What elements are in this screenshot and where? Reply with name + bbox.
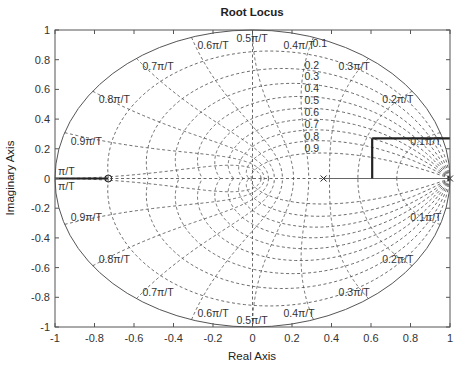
frequency-label: 0.5π/T [237, 32, 269, 44]
y-tick-label: -0.6 [31, 262, 50, 274]
damping-curve [228, 179, 450, 238]
damping-curve [251, 179, 450, 205]
frequency-label: 0.2π/T [382, 93, 414, 105]
x-axis-title: Real Axis [228, 350, 276, 362]
frequency-label: 0.8π/T [99, 253, 131, 265]
y-tick-label: 0.8 [35, 54, 50, 66]
x-tick-label: -0.2 [204, 332, 223, 344]
y-tick-label: -1 [40, 321, 50, 333]
frequency-label: 0.8π/T [99, 93, 131, 105]
frequency-label: 0.6π/T [197, 39, 229, 51]
frequency-label: 0.1π/T [410, 135, 442, 147]
damping-label: 0.7 [304, 118, 319, 130]
frequency-label: 0.6π/T [197, 307, 229, 319]
frequency-label: 0.2π/T [382, 253, 414, 265]
frequency-label: π/T [58, 180, 75, 192]
x-tick-label: 0 [249, 332, 255, 344]
frequency-label: 0.5π/T [237, 314, 269, 326]
y-tick-label: 0 [44, 173, 50, 185]
chart-title: Root Locus [220, 6, 283, 18]
damping-curve [228, 119, 450, 178]
damping-label: 0.8 [304, 130, 319, 142]
frequency-curve [329, 179, 368, 299]
damping-label: 0.6 [304, 106, 319, 118]
y-tick-label: -0.8 [31, 291, 50, 303]
damping-curve [251, 153, 450, 179]
frequency-label: 0.3π/T [339, 60, 371, 72]
damping-label: 0.3 [304, 70, 319, 82]
frequency-curve [191, 179, 282, 320]
frequency-label: 0.7π/T [142, 60, 174, 72]
x-tick-label: 1 [447, 332, 453, 344]
damping-label: 0.9 [304, 142, 319, 154]
x-tick-label: -1 [50, 332, 60, 344]
frequency-curve [329, 58, 368, 178]
x-tick-label: -0.8 [85, 332, 104, 344]
frequency-label: 0.4π/T [284, 307, 316, 319]
x-tick-label: 0.2 [284, 332, 299, 344]
x-tick-label: -0.6 [125, 332, 144, 344]
damping-curve [146, 68, 450, 178]
damping-label: 0.1 [312, 37, 327, 49]
frequency-curve [55, 179, 261, 192]
x-tick-label: 0.6 [363, 332, 378, 344]
damping-curve [146, 179, 450, 289]
frequency-label: π/T [58, 165, 75, 177]
y-axis-title: Imaginary Axis [4, 140, 16, 215]
damping-label: 0.4 [304, 82, 319, 94]
damping-label: 0.2 [304, 59, 319, 71]
frequency-label: 0.9π/T [71, 135, 103, 147]
frequency-curve [55, 165, 261, 178]
frequency-label: 0.1π/T [410, 211, 442, 223]
frequency-curve [136, 58, 274, 178]
y-tick-label: -0.4 [31, 232, 50, 244]
y-tick-label: -0.2 [31, 202, 50, 214]
x-tick-label: 0.4 [324, 332, 339, 344]
frequency-label: 0.3π/T [339, 286, 371, 298]
frequency-label: 0.4π/T [284, 39, 316, 51]
damping-label: 0.5 [304, 94, 319, 106]
y-tick-label: 0.2 [35, 143, 50, 155]
frequency-label: 0.7π/T [142, 286, 174, 298]
frequency-label: 0.9π/T [71, 211, 103, 223]
y-tick-label: 0.6 [35, 83, 50, 95]
frequency-curve [301, 179, 313, 320]
x-tick-label: 0.8 [403, 332, 418, 344]
x-tick-label: -0.4 [164, 332, 183, 344]
frequency-curve [136, 179, 274, 299]
root-locus-chart: Root Locus -1-0.8-0.6-0.4-0.200.20.40.60… [0, 0, 467, 371]
frequency-curve [191, 37, 282, 178]
y-tick-label: 0.4 [35, 113, 50, 125]
y-tick-label: 1 [44, 24, 50, 36]
